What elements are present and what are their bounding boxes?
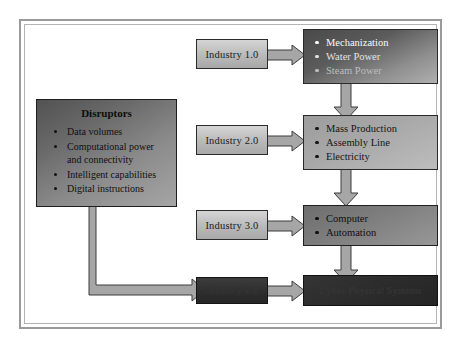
feature-item: Automation <box>326 226 431 240</box>
disruptors-list: Data volumes Computational power and con… <box>37 125 176 197</box>
feature-item: Cyber-Physical Systems <box>304 285 437 296</box>
connector-label3-to-features3 <box>266 216 306 238</box>
feature-item: Computer <box>326 212 431 226</box>
disruptors-title: Disruptors <box>37 107 176 119</box>
stage-features-industry-1-0: Mechanization Water Power Steam Power <box>303 29 438 84</box>
feature-list: Computer Automation <box>304 212 437 240</box>
feature-item: Assembly Line <box>326 136 431 150</box>
stage-label-industry-1-0[interactable]: Industry 1.0 <box>196 39 268 69</box>
diagram-canvas: Disruptors Data volumes Computational po… <box>0 0 461 348</box>
stage-features-industry-4-0: Cyber-Physical Systems <box>303 275 438 306</box>
connector-label4-to-features4 <box>266 281 306 303</box>
disruptors-item: Computational power and connectivity <box>67 140 168 167</box>
disruptors-panel: Disruptors Data volumes Computational po… <box>36 99 177 207</box>
disruptors-item: Digital instructions <box>67 182 168 196</box>
disruptors-item: Intelligent capabilities <box>67 168 168 182</box>
stage-features-industry-3-0: Computer Automation <box>303 205 438 246</box>
feature-item: Steam Power <box>326 64 431 78</box>
feature-list: Mass Production Assembly Line Electricit… <box>304 122 437 164</box>
connector-label1-to-features1 <box>266 45 306 67</box>
disruptors-item: Data volumes <box>67 125 168 139</box>
feature-item: Electricity <box>326 150 431 164</box>
stage-label-industry-4-0[interactable]: Industry 4.0 <box>196 277 268 304</box>
connector-label2-to-features2 <box>266 131 306 153</box>
stage-label-industry-3-0[interactable]: Industry 3.0 <box>196 210 268 240</box>
stage-label-industry-2-0[interactable]: Industry 2.0 <box>196 125 268 155</box>
stage-features-industry-2-0: Mass Production Assembly Line Electricit… <box>303 115 438 170</box>
feature-item: Mechanization <box>326 36 431 50</box>
feature-list: Mechanization Water Power Steam Power <box>304 36 437 78</box>
connector-stage2-to-stage3 <box>333 168 359 208</box>
feature-item: Water Power <box>326 50 431 64</box>
feature-item: Mass Production <box>326 122 431 136</box>
